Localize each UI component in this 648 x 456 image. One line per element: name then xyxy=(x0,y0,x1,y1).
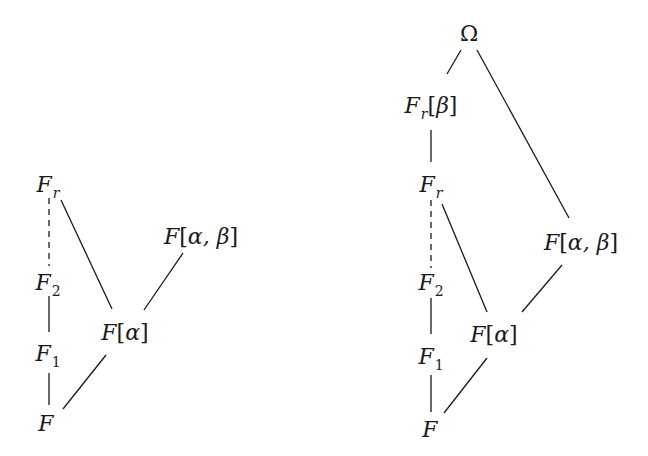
node-right-Fr: Fr xyxy=(420,174,443,196)
edge-left-Fr-Falpha xyxy=(61,200,112,309)
node-right-Frbeta: Fr[β] xyxy=(405,95,458,117)
edge-right-Falpha-F xyxy=(444,358,487,413)
edge-right-Falphabeta-Falpha xyxy=(522,265,562,312)
field-extension-lattice-diagrams xyxy=(0,0,648,456)
edge-right-Omega-Falphabeta xyxy=(477,50,569,218)
node-right-F2: F2 xyxy=(418,272,443,294)
node-right-Falphabeta: F[α, β] xyxy=(544,232,618,254)
node-left-Falphabeta: F[α, β] xyxy=(164,226,238,248)
node-left-Fr: Fr xyxy=(37,174,60,196)
node-left-Falpha: F[α] xyxy=(101,322,148,344)
left-diagram-edges xyxy=(49,198,183,409)
node-left-F1: F1 xyxy=(35,343,60,365)
edge-right-Fr-Falpha xyxy=(442,204,487,312)
node-left-F: F xyxy=(38,413,53,435)
node-right-Falpha: F[α] xyxy=(470,324,517,346)
edge-right-Omega-Frbeta xyxy=(447,50,461,74)
node-right-F1: F1 xyxy=(418,346,443,368)
edge-left-Falphabeta-Falpha xyxy=(144,253,183,310)
node-right-Omega: Ω xyxy=(460,23,478,45)
edge-left-Falpha-F xyxy=(63,355,106,409)
node-right-F: F xyxy=(422,419,437,441)
node-left-F2: F2 xyxy=(35,272,60,294)
